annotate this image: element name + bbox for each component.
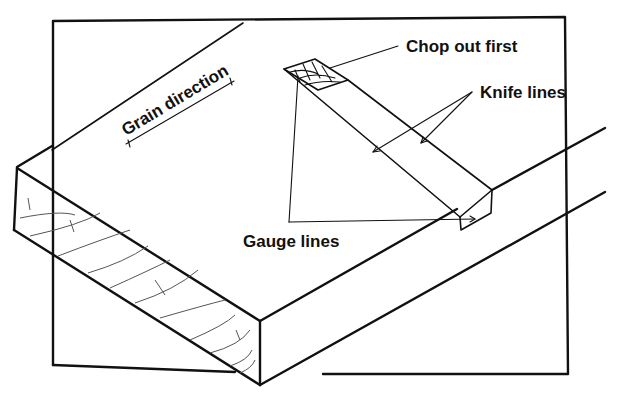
gauge-lines-annotation: Gauge lines [243, 76, 475, 251]
grain-direction-annotation: Grain direction [118, 61, 234, 147]
housing-joint-diagram: Grain direction Chop out first Knife lin… [0, 0, 625, 393]
workpiece-board [14, 128, 605, 385]
housing-slot [284, 59, 492, 230]
chop-out-first-annotation: Chop out first [330, 37, 518, 68]
chop-out-first-label: Chop out first [406, 37, 518, 56]
knife-lines-label: Knife lines [480, 83, 566, 102]
background-board [52, 17, 568, 374]
gauge-lines-label: Gauge lines [243, 232, 339, 251]
end-grain-rings [20, 198, 255, 373]
knife-lines-annotation: Knife lines [373, 83, 566, 152]
grain-direction-label: Grain direction [118, 61, 231, 140]
